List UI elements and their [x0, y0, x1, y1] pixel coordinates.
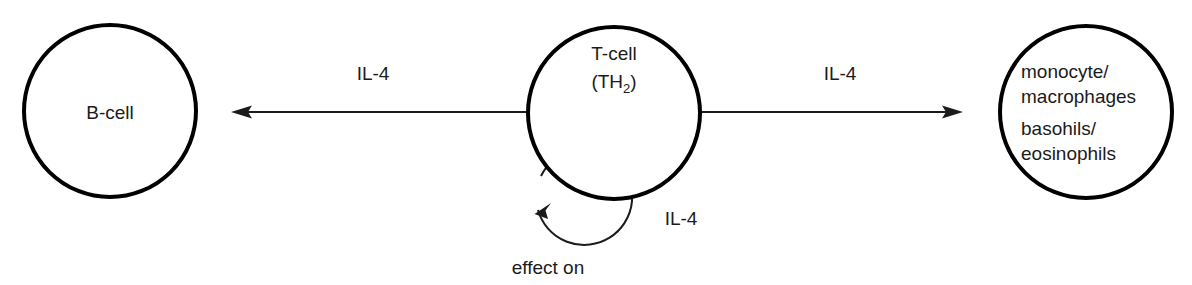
node-b-cell[interactable]: B-cell	[24, 25, 196, 197]
edge-t-cell-to-myeloid	[685, 106, 963, 119]
immunology-diagram: B-cell T-cell (TH2) monocyte/ macrophage…	[0, 0, 1192, 285]
edge-caption-effect-on: effect on	[512, 257, 585, 278]
arrowhead-selfloop-icon	[535, 203, 552, 219]
edge-label-left-il4: IL-4	[357, 63, 390, 84]
myeloid-label-line4: eosinophils	[1021, 143, 1116, 164]
t-cell-label-suffix: )	[630, 71, 636, 92]
t-cell-label-subscript: 2	[623, 81, 630, 96]
t-cell-label-line1: T-cell	[591, 43, 636, 64]
edge-label-right-il4: IL-4	[824, 63, 857, 84]
myeloid-label-line3: basohils/	[1021, 118, 1097, 139]
diagram-canvas: B-cell T-cell (TH2) monocyte/ macrophage…	[0, 0, 1192, 285]
myeloid-label-line1: monocyte/	[1021, 61, 1109, 82]
edge-t-cell-to-b-cell	[231, 106, 547, 119]
myeloid-cells-circle[interactable]	[1000, 26, 1172, 198]
b-cell-label: B-cell	[86, 102, 134, 123]
node-myeloid-cells[interactable]: monocyte/ macrophages basohils/ eosinoph…	[1000, 26, 1172, 198]
myeloid-label-line2: macrophages	[1021, 86, 1136, 107]
node-t-cell[interactable]: T-cell (TH2)	[528, 27, 700, 199]
t-cell-label-prefix: (TH	[591, 71, 623, 92]
edge-label-selfloop-il4: IL-4	[665, 208, 698, 229]
